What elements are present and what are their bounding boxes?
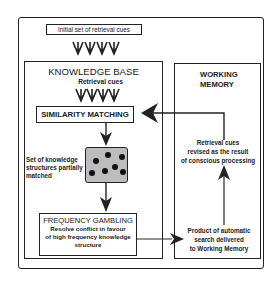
retrieval-cues-arrows-icon (76, 89, 119, 101)
right-arrow-icon (137, 233, 184, 245)
feedback-arrow-icon (141, 103, 224, 140)
arrows-layer (0, 0, 276, 287)
up-arrow-icon (218, 165, 230, 225)
down-arrow-icon (100, 123, 112, 146)
down-arrow-icon (100, 183, 112, 212)
initial-cues-arrows-icon (73, 42, 119, 54)
